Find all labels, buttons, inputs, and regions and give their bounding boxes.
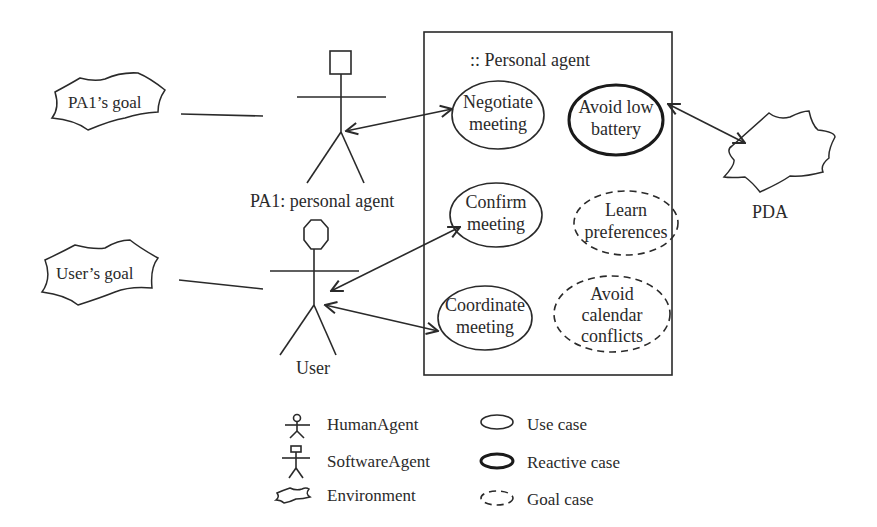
legend-human-agent-label: HumanAgent (327, 415, 419, 434)
pa1-goal-label: PA1’s goal (68, 93, 142, 112)
use-case-learn-preferences[interactable]: Learn preferences (574, 191, 678, 255)
pa1-goal-link (181, 114, 263, 116)
user-goal-label: User’s goal (56, 264, 134, 283)
legend-goal-case-label: Goal case (527, 490, 594, 509)
legend-goal-case-icon (481, 491, 513, 505)
legend-human-agent-icon (285, 415, 310, 439)
use-case-avoid-low-battery[interactable]: Avoid low battery (569, 85, 663, 155)
user-actor-icon[interactable] (270, 220, 359, 355)
svg-text:meeting: meeting (456, 317, 514, 337)
legend-reactive-case-icon (481, 454, 513, 468)
legend-reactive-case-label: Reactive case (527, 453, 620, 472)
association-user-confirm (331, 227, 460, 291)
legend-environment-label: Environment (327, 486, 416, 505)
use-case-diagram: :: Personal agent PA1’s goal PA1: person… (0, 0, 877, 527)
use-case-confirm-meeting[interactable]: Confirm meeting (450, 183, 542, 247)
legend-use-case-label: Use case (527, 415, 587, 434)
user-goal-link (179, 280, 263, 289)
user-actor-label: User (296, 358, 330, 378)
svg-text:meeting: meeting (469, 114, 527, 134)
use-case-coordinate-meeting[interactable]: Coordinate meeting (438, 286, 532, 350)
svg-text:conflicts: conflicts (581, 326, 643, 346)
svg-text:Coordinate: Coordinate (445, 295, 525, 315)
system-boundary-label: :: Personal agent (470, 50, 590, 70)
legend-software-agent-label: SoftwareAgent (327, 452, 430, 471)
pa1-actor-icon[interactable] (297, 51, 386, 183)
svg-text:battery: battery (591, 119, 641, 139)
association-pda-battery (668, 104, 745, 143)
association-pa1-negotiate (346, 109, 452, 131)
legend-use-case-icon (481, 415, 513, 429)
association-user-coordinate (325, 305, 438, 331)
pda-environment-icon[interactable] (724, 111, 835, 192)
pda-label: PDA (752, 202, 788, 222)
svg-text:Negotiate: Negotiate (463, 92, 533, 112)
svg-text:meeting: meeting (467, 214, 525, 234)
svg-text:Avoid low: Avoid low (578, 97, 653, 117)
legend-software-agent-icon (282, 446, 310, 478)
use-case-negotiate-meeting[interactable]: Negotiate meeting (452, 81, 544, 149)
svg-text:Avoid: Avoid (590, 284, 634, 304)
pa1-actor-label: PA1: personal agent (250, 191, 394, 211)
legend: HumanAgent SoftwareAgent Environment Use… (276, 415, 620, 510)
legend-environment-icon (276, 488, 310, 503)
svg-text:Confirm: Confirm (466, 192, 527, 212)
svg-text:calendar: calendar (582, 305, 643, 325)
svg-text:preferences: preferences (585, 222, 668, 242)
svg-text:Learn: Learn (605, 200, 647, 220)
use-case-avoid-calendar-conflicts[interactable]: Avoid calendar conflicts (554, 276, 670, 352)
